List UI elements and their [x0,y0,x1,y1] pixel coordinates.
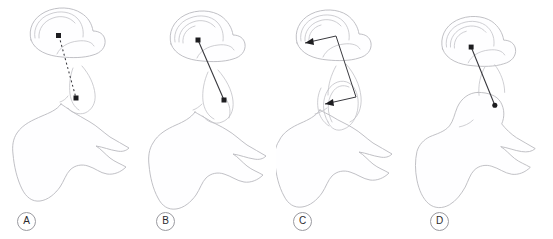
panel-d: D [413,0,551,239]
panel-b-illustration [138,0,276,239]
panel-b: B [138,0,276,239]
panel-d-illustration [413,0,551,239]
axis-lower-vertebra-d [415,65,535,208]
axis-lower-vertebra-b [149,70,266,209]
measurement-endpoint-marker-upper-d [469,45,474,50]
bracket-arrowhead-lower-c [325,99,334,106]
atlas-upper-body-d [442,16,516,66]
axis-lower-vertebra-a [13,66,129,201]
axis-lower-vertebra-c [276,64,392,207]
panel-label-c: C [293,212,312,231]
measurement-endpoint-marker-lower-a [74,96,79,101]
figure-root: A B [0,0,553,239]
measurement-endpoint-marker-lower-d [492,103,497,108]
panel-c-illustration [276,0,414,239]
panel-label-b: B [156,212,175,231]
panel-a: A [0,0,138,239]
panel-label-a: A [17,212,36,231]
atlas-upper-body-c [296,10,371,61]
panel-label-d: D [430,212,449,231]
measurement-endpoint-marker-lower-b [222,98,227,103]
atlas-upper-body-a [30,8,105,58]
measurement-endpoint-marker-upper-b [196,38,201,43]
panel-a-illustration [0,0,138,239]
measurement-endpoint-marker-upper-a [56,33,61,38]
atlas-upper-body-b [170,11,245,62]
panel-c: C [276,0,414,239]
